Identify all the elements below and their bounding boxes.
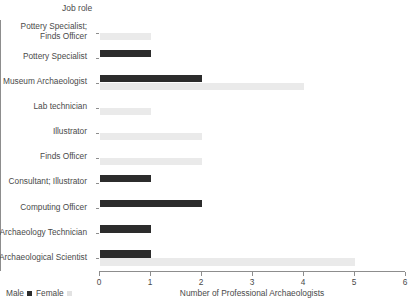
x-axis-tick	[303, 272, 304, 276]
x-axis-tick-label: 4	[301, 277, 306, 287]
male-swatch-icon	[27, 291, 32, 296]
y-axis-tick	[96, 108, 99, 109]
bar-female	[100, 33, 151, 40]
legend-item-male: Male	[6, 288, 32, 298]
x-axis-tick	[252, 272, 253, 276]
bar-group: Computing Officer	[99, 196, 405, 221]
x-axis-tick-label: 2	[199, 277, 204, 287]
x-axis-tick-label: 3	[250, 277, 255, 287]
x-axis-tick-label: 5	[352, 277, 357, 287]
bar-group: Illustrator	[99, 120, 405, 145]
category-label: Consultant; Illustrator	[0, 177, 87, 186]
y-axis-title: Job role	[62, 3, 92, 13]
category-label: Computing Officer	[0, 203, 87, 212]
category-label: Museum Archaeologist	[0, 77, 87, 86]
y-axis-tick	[96, 83, 99, 84]
x-axis-tick	[201, 272, 202, 276]
bar-group: Museum Archaeologist	[99, 70, 405, 95]
bar-group: Archaeology Technician	[99, 221, 405, 246]
legend-label: Male	[6, 288, 24, 298]
y-axis-tick	[96, 208, 99, 209]
bar-male	[100, 200, 202, 207]
y-axis-tick	[96, 133, 99, 134]
bar-group: Pottery Specialist; Finds Officer	[99, 20, 405, 45]
bar-female	[100, 258, 355, 265]
y-axis-tick	[96, 183, 99, 184]
bar-group: Lab technician	[99, 95, 405, 120]
female-swatch-icon	[67, 291, 72, 296]
x-axis-tick	[150, 272, 151, 276]
plot-area: Pottery Specialist; Finds OfficerPottery…	[99, 20, 405, 271]
y-axis-tick	[96, 233, 99, 234]
x-axis-tick-label: 1	[148, 277, 153, 287]
x-axis-tick	[99, 272, 100, 276]
bar-group: Pottery Specialist	[99, 45, 405, 70]
bar-group: Archaeological Scientist	[99, 246, 405, 271]
x-axis-tick	[405, 272, 406, 276]
category-label: Illustrator	[0, 127, 87, 136]
category-label: Archaeology Technician	[0, 228, 87, 237]
x-axis-tick-label: 0	[97, 277, 102, 287]
legend-item-female: Female	[36, 288, 72, 298]
category-label: Finds Officer	[0, 152, 87, 161]
legend-label: Female	[36, 288, 64, 298]
bar-female	[100, 133, 202, 140]
category-label: Lab technician	[0, 102, 87, 111]
category-label: Pottery Specialist; Finds Officer	[0, 22, 87, 41]
bar-male	[100, 50, 151, 57]
category-label: Archaeological Scientist	[0, 253, 87, 262]
chart-legend: MaleFemale	[6, 288, 72, 298]
bar-male	[100, 75, 202, 82]
bar-male	[100, 250, 151, 257]
x-axis-tick	[354, 272, 355, 276]
bar-female	[100, 108, 151, 115]
x-axis-tick-label: 6	[403, 277, 408, 287]
y-axis-tick	[96, 33, 99, 34]
y-axis-tick	[96, 258, 99, 259]
x-axis-title: Number of Professional Archaeologists	[180, 288, 324, 298]
bar-male	[100, 225, 151, 232]
y-axis-tick	[96, 158, 99, 159]
bar-group: Finds Officer	[99, 146, 405, 171]
bar-female	[100, 83, 304, 90]
bar-group: Consultant; Illustrator	[99, 171, 405, 196]
category-label: Pottery Specialist	[0, 52, 87, 61]
bar-chart: Job role Pottery Specialist; Finds Offic…	[0, 0, 415, 307]
bar-male	[100, 175, 151, 182]
y-axis-tick	[96, 58, 99, 59]
bar-female	[100, 158, 202, 165]
